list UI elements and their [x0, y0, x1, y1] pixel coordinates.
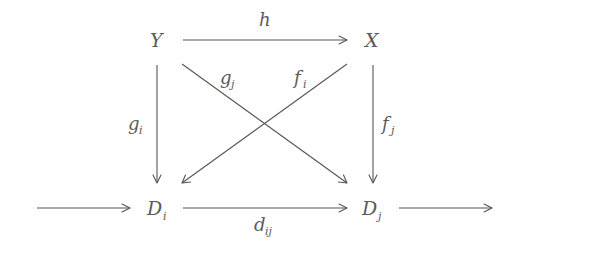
edge-h: h [183, 9, 347, 44]
edge-outgoing [399, 204, 492, 212]
node-d-i-subscript: i [163, 210, 167, 223]
node-d-j-label: D [361, 197, 377, 219]
commutative-diagram: Y X D i D j h g i f j g j f [0, 0, 605, 255]
edge-d-ij-subscript: ij [265, 225, 273, 238]
node-d-j: D j [361, 197, 382, 223]
edge-g-j-label: g [220, 67, 232, 88]
node-d-i-label: D [146, 197, 162, 219]
edge-f-j-subscript: j [388, 124, 395, 137]
edge-g-i-label: g [128, 113, 140, 134]
node-x-label: X [363, 29, 380, 51]
edge-d-ij: d ij [183, 204, 347, 238]
node-x: X [363, 29, 380, 51]
edge-f-j: f j [369, 65, 395, 183]
edge-f-i-subscript: i [303, 78, 307, 91]
edge-g-i-subscript: i [139, 124, 143, 137]
edge-h-label: h [259, 9, 271, 30]
node-y: Y [150, 29, 165, 51]
edge-g-i: g i [128, 65, 161, 183]
edge-incoming [37, 204, 130, 212]
node-d-i: D i [146, 197, 167, 223]
edge-d-ij-label: d [254, 214, 266, 235]
node-y-label: Y [150, 29, 165, 51]
